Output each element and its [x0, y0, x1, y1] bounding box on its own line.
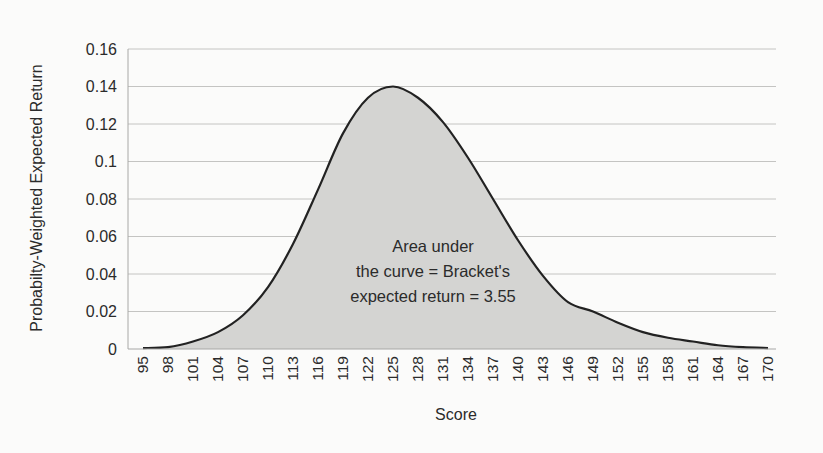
x-tick-label: 149 — [584, 356, 601, 382]
y-tick-label: 0.14 — [86, 78, 117, 95]
x-tick-label: 95 — [134, 356, 151, 373]
x-tick-label: 110 — [259, 356, 276, 381]
y-tick-label: 0.08 — [86, 191, 117, 208]
x-tick-label: 152 — [609, 356, 626, 382]
x-tick-label: 101 — [184, 356, 201, 382]
area-fill — [143, 87, 768, 350]
x-tick-label: 107 — [234, 356, 251, 382]
annotation-line-1: Area under — [392, 237, 474, 255]
y-tick-label: 0.02 — [86, 303, 117, 320]
x-tick-label: 98 — [159, 356, 176, 373]
y-tick-label: 0.04 — [86, 266, 117, 283]
x-tick-label: 131 — [434, 356, 451, 382]
x-tick-label: 104 — [209, 356, 226, 382]
y-axis-label: Probabilty-Weighted Expected Return — [28, 64, 45, 331]
x-axis-tick-labels: 9598101104107110113116119122125128131134… — [134, 356, 776, 382]
y-tick-label: 0.12 — [86, 116, 117, 133]
x-tick-label: 128 — [409, 356, 426, 382]
x-tick-label: 161 — [684, 356, 701, 382]
x-tick-label: 170 — [759, 356, 776, 382]
x-tick-label: 125 — [384, 356, 401, 382]
x-tick-label: 140 — [509, 356, 526, 382]
x-tick-label: 167 — [734, 356, 751, 382]
x-tick-label: 137 — [484, 356, 501, 382]
x-tick-label: 134 — [459, 356, 476, 382]
chart-canvas: 00.020.040.060.080.10.120.140.16 9598101… — [0, 0, 823, 453]
score-distribution-chart: 00.020.040.060.080.10.120.140.16 9598101… — [0, 0, 823, 453]
y-axis-tick-labels: 00.020.040.060.080.10.120.140.16 — [86, 41, 117, 358]
y-tick-label: 0.06 — [86, 228, 117, 245]
annotation-line-3: expected return = 3.55 — [350, 287, 516, 305]
x-tick-label: 158 — [659, 356, 676, 382]
x-tick-label: 119 — [334, 356, 351, 381]
area-series — [143, 87, 768, 350]
y-tick-label: 0 — [108, 341, 117, 358]
x-tick-label: 116 — [309, 356, 326, 381]
x-tick-label: 122 — [359, 356, 376, 382]
x-tick-label: 155 — [634, 356, 651, 382]
x-tick-label: 164 — [709, 356, 726, 382]
annotation-line-2: the curve = Bracket's — [356, 262, 510, 280]
x-tick-label: 146 — [559, 356, 576, 382]
y-tick-label: 0.1 — [95, 153, 117, 170]
x-tick-label: 113 — [284, 356, 301, 381]
x-axis-label: Score — [435, 406, 477, 423]
x-tick-label: 143 — [534, 356, 551, 382]
y-tick-label: 0.16 — [86, 41, 117, 58]
